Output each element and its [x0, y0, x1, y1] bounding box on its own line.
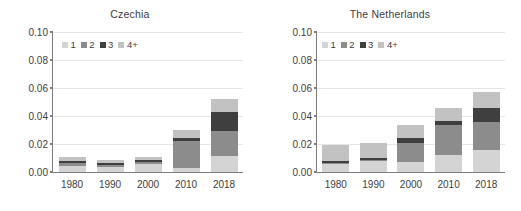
bar-segment-1[interactable]	[173, 168, 200, 172]
stacked-bar[interactable]	[211, 99, 238, 172]
bars-czechia: 19801990200020102018	[53, 32, 243, 172]
x-axis-tick-label: 1990	[362, 179, 384, 190]
legend-entry[interactable]: 3	[100, 40, 114, 50]
bar-group[interactable]: 1980	[317, 32, 355, 172]
legend-swatch-icon	[62, 42, 68, 48]
stacked-bar[interactable]	[59, 157, 86, 172]
x-axis-tick-label: 1990	[99, 179, 121, 190]
y-axis-tick-label: 0.04	[293, 111, 312, 122]
bar-segment-1[interactable]	[397, 162, 424, 172]
legend-label: 2	[349, 40, 354, 50]
y-axis-tick-label: 0.00	[29, 167, 48, 178]
bar-group[interactable]: 2000	[129, 32, 167, 172]
plot-area-czechia: 0.000.020.040.060.080.10 198019902000201…	[52, 32, 243, 173]
x-axis-tick-label: 2010	[437, 179, 459, 190]
y-axis-tick-label: 0.08	[293, 55, 312, 66]
x-axis-tick-label: 2000	[137, 179, 159, 190]
panel-title: Czechia	[0, 8, 260, 20]
bar-segment-2[interactable]	[435, 125, 462, 154]
bar-segment-1[interactable]	[473, 150, 500, 172]
bar-segment-1[interactable]	[211, 156, 238, 172]
bar-group[interactable]: 2010	[430, 32, 468, 172]
legend-entry[interactable]: 2	[81, 40, 95, 50]
legend-label: 4+	[387, 40, 398, 50]
legend-entry[interactable]: 1	[322, 40, 336, 50]
y-axis-tick-label: 0.10	[29, 27, 48, 38]
bar-segment-1[interactable]	[97, 167, 124, 172]
y-axis-tick-label: 0.04	[29, 111, 48, 122]
bar-segment-2[interactable]	[211, 131, 238, 156]
bar-segment-1[interactable]	[322, 164, 349, 172]
bar-group[interactable]: 1980	[53, 32, 91, 172]
bar-segment-1[interactable]	[360, 161, 387, 172]
legend-swatch-icon	[100, 42, 106, 48]
stacked-bar[interactable]	[435, 108, 462, 172]
legend-label: 1	[71, 40, 76, 50]
bar-segment-4plus[interactable]	[360, 143, 387, 157]
bar-segment-2[interactable]	[473, 122, 500, 150]
bar-segment-3[interactable]	[211, 112, 238, 132]
y-axis-tick-label: 0.02	[293, 139, 312, 150]
legend-entry[interactable]: 4+	[118, 40, 137, 50]
legend-czechia: 1234+	[62, 40, 138, 50]
plot-area-the-netherlands: 0.000.020.040.060.080.10 198019902000201…	[316, 32, 505, 173]
legend-swatch-icon	[118, 42, 124, 48]
legend-label: 4+	[127, 40, 138, 50]
bar-segment-1[interactable]	[59, 166, 86, 172]
x-axis-tick-label: 1980	[325, 179, 347, 190]
bar-segment-4plus[interactable]	[211, 99, 238, 112]
legend-label: 3	[108, 40, 113, 50]
legend-entry[interactable]: 3	[360, 40, 374, 50]
panel-the-netherlands: The Netherlands 0.000.020.040.060.080.10…	[260, 0, 520, 211]
stacked-bar[interactable]	[135, 157, 162, 172]
bar-group[interactable]: 2018	[205, 32, 243, 172]
bar-segment-2[interactable]	[173, 141, 200, 167]
legend-label: 1	[331, 40, 336, 50]
bar-segment-4plus[interactable]	[435, 108, 462, 121]
stacked-bar[interactable]	[473, 92, 500, 172]
legend-label: 3	[368, 40, 373, 50]
panel-czechia: Czechia 0.000.020.040.060.080.10 1980199…	[0, 0, 260, 211]
legend-swatch-icon	[378, 42, 384, 48]
bar-group[interactable]: 1990	[91, 32, 129, 172]
y-axis-tick-label: 0.00	[293, 167, 312, 178]
legend-entry[interactable]: 4+	[378, 40, 397, 50]
legend-the-netherlands: 1234+	[322, 40, 398, 50]
bar-segment-4plus[interactable]	[173, 130, 200, 138]
y-axis-tick-label: 0.08	[29, 55, 48, 66]
stacked-bar[interactable]	[322, 145, 349, 172]
bar-segment-1[interactable]	[435, 155, 462, 172]
legend-swatch-icon	[341, 42, 347, 48]
stacked-bar[interactable]	[173, 130, 200, 172]
bar-segment-2[interactable]	[397, 143, 424, 162]
bars-the-netherlands: 19801990200020102018	[317, 32, 505, 172]
x-axis-tick-label: 2000	[400, 179, 422, 190]
x-axis-tick-label: 2018	[475, 179, 497, 190]
x-axis-tick-label: 1980	[61, 179, 83, 190]
panel-title: The Netherlands	[260, 8, 520, 20]
legend-swatch-icon	[360, 42, 366, 48]
stacked-bar[interactable]	[360, 143, 387, 172]
stacked-bar[interactable]	[97, 160, 124, 172]
y-axis-tick-label: 0.02	[29, 139, 48, 150]
y-axis-tick-label: 0.06	[293, 83, 312, 94]
bar-group[interactable]: 1990	[355, 32, 393, 172]
legend-swatch-icon	[322, 42, 328, 48]
bar-segment-4plus[interactable]	[397, 125, 424, 138]
y-axis-tick-label: 0.06	[29, 83, 48, 94]
legend-entry[interactable]: 1	[62, 40, 76, 50]
bar-group[interactable]: 2010	[167, 32, 205, 172]
x-axis-tick-label: 2018	[213, 179, 235, 190]
legend-label: 2	[89, 40, 94, 50]
bar-segment-4plus[interactable]	[322, 145, 349, 160]
figure-stacked-bar-charts: Czechia 0.000.020.040.060.080.10 1980199…	[0, 0, 521, 211]
y-axis-tick-label: 0.10	[293, 27, 312, 38]
bar-group[interactable]: 2000	[392, 32, 430, 172]
bar-group[interactable]: 2018	[467, 32, 505, 172]
x-axis-tick-label: 2010	[175, 179, 197, 190]
stacked-bar[interactable]	[397, 125, 424, 172]
bar-segment-3[interactable]	[473, 108, 500, 122]
bar-segment-4plus[interactable]	[473, 92, 500, 108]
bar-segment-1[interactable]	[135, 164, 162, 172]
legend-entry[interactable]: 2	[341, 40, 355, 50]
